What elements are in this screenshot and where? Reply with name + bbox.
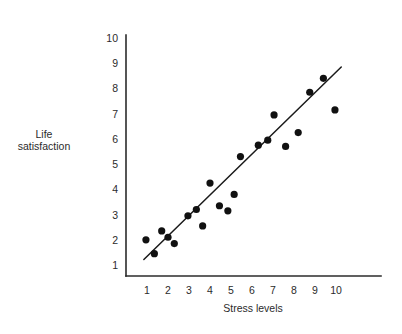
data-point <box>151 250 158 257</box>
data-point <box>255 142 262 149</box>
data-point <box>237 153 244 160</box>
x-axis-title: Stress levels <box>223 302 283 314</box>
data-point <box>206 179 213 186</box>
data-point <box>199 222 206 229</box>
y-tick-label: 9 <box>112 57 118 69</box>
y-tick-label: 1 <box>112 259 118 271</box>
data-point <box>270 111 277 118</box>
data-point <box>320 75 327 82</box>
x-tick-label: 2 <box>165 284 171 296</box>
scatter-plot-figure: Life satisfaction 12345678910 1234567891… <box>0 0 402 334</box>
trend-line-group <box>144 67 341 259</box>
x-tick-label: 3 <box>186 284 192 296</box>
data-point <box>224 207 231 214</box>
data-point <box>158 227 165 234</box>
x-tick-label: 8 <box>291 284 297 296</box>
data-point <box>164 234 171 241</box>
y-tick-label: 7 <box>112 108 118 120</box>
data-point <box>282 143 289 150</box>
x-tick-label: 6 <box>249 284 255 296</box>
x-tick-label: 5 <box>228 284 234 296</box>
trend-line <box>144 67 341 259</box>
data-point <box>264 137 271 144</box>
data-point <box>331 106 338 113</box>
y-tick-label-group: 12345678910 <box>106 32 118 271</box>
data-point <box>142 236 149 243</box>
plot-canvas: 12345678910 12345678910 Stress levels <box>0 0 402 334</box>
data-point <box>184 212 191 219</box>
data-point <box>171 240 178 247</box>
data-point <box>306 89 313 96</box>
x-tick-label: 7 <box>270 284 276 296</box>
y-tick-label: 5 <box>112 158 118 170</box>
y-tick-label: 8 <box>112 82 118 94</box>
data-point <box>193 206 200 213</box>
y-tick-label: 2 <box>112 234 118 246</box>
data-point <box>295 129 302 136</box>
x-tick-label: 1 <box>144 284 150 296</box>
x-tick-label: 4 <box>207 284 213 296</box>
y-tick-label: 6 <box>112 133 118 145</box>
y-tick-label: 10 <box>106 32 118 44</box>
x-tick-label: 10 <box>330 284 342 296</box>
y-tick-label: 3 <box>112 209 118 221</box>
x-tick-label: 9 <box>312 284 318 296</box>
x-tick-label-group: 12345678910 <box>144 284 342 296</box>
y-tick-label: 4 <box>112 183 118 195</box>
data-point <box>216 202 223 209</box>
data-point <box>231 191 238 198</box>
